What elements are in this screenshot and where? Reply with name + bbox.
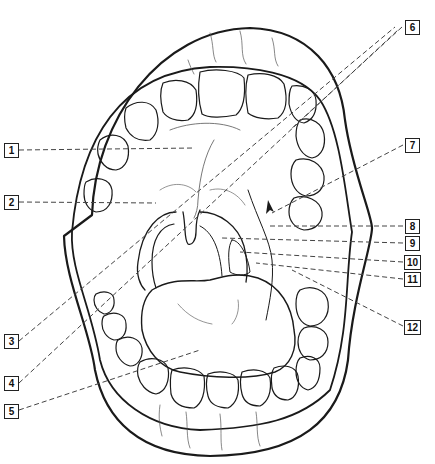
- label-12: 12: [404, 320, 421, 335]
- label-8: 8: [405, 219, 420, 234]
- label-2: 2: [4, 195, 19, 210]
- label-1: 1: [4, 143, 19, 158]
- oral-cavity-diagram: [0, 0, 435, 464]
- label-5: 5: [4, 404, 19, 419]
- label-4: 4: [4, 376, 19, 391]
- label-11: 11: [404, 272, 421, 287]
- leader-lines: [19, 27, 403, 410]
- palatoglossal-arch: [137, 212, 176, 290]
- upper-teeth: [84, 70, 325, 230]
- right-arch: [200, 212, 247, 282]
- label-9: 9: [405, 236, 420, 251]
- label-10: 10: [404, 255, 421, 270]
- inner-lip-outline: [72, 67, 352, 430]
- arrow-marker: [266, 200, 274, 214]
- outer-lip-outline: [64, 28, 372, 456]
- label-3: 3: [4, 334, 19, 349]
- label-6: 6: [405, 20, 420, 35]
- label-7: 7: [405, 138, 420, 153]
- lower-teeth: [94, 288, 328, 408]
- hard-palate: [170, 123, 240, 130]
- palatine-raphe: [194, 140, 214, 218]
